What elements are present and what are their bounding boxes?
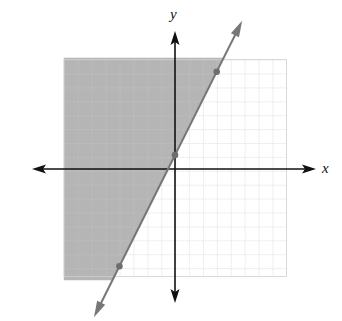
data-point: [213, 68, 220, 75]
y-axis-label: y: [170, 6, 177, 23]
data-point: [116, 263, 123, 270]
line-arrow-up-icon: [231, 21, 242, 37]
data-point: [172, 152, 179, 159]
line-arrow-down-icon: [94, 301, 105, 317]
coordinate-plane: [0, 0, 342, 321]
x-axis-label: x: [322, 160, 329, 177]
